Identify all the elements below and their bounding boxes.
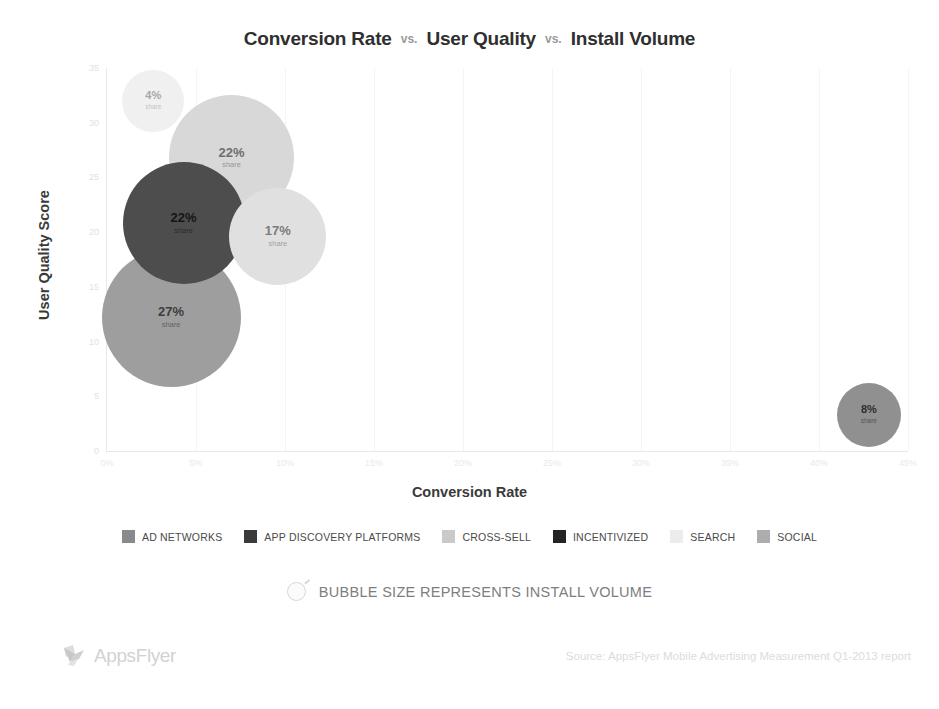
bubble-share-caption: share xyxy=(145,103,161,111)
bubble-share-caption: share xyxy=(268,239,287,249)
plot-area: 0%5%10%15%20%25%30%35%40%45%051015202530… xyxy=(106,68,908,452)
x-axis-tick-label: 15% xyxy=(365,458,383,468)
bubble-size-note: BUBBLE SIZE REPRESENTS INSTALL VOLUME xyxy=(0,582,939,601)
bubble-share-value: 22% xyxy=(171,211,197,225)
bubble-ad-networks[interactable]: 17%share xyxy=(229,188,326,285)
title-part-install-volume: Install Volume xyxy=(571,28,696,49)
bubble-share-caption: share xyxy=(222,160,241,170)
bubble-share-value: 27% xyxy=(158,305,184,319)
x-axis-tick-label: 40% xyxy=(810,458,828,468)
title-part-conversion-rate: Conversion Rate xyxy=(244,28,392,49)
legend-swatch-icon xyxy=(757,530,770,543)
legend-label: CROSS-SELL xyxy=(462,531,531,543)
legend-swatch-icon xyxy=(442,530,455,543)
y-axis-title: User Quality Score xyxy=(36,190,52,320)
bubble-share-value: 17% xyxy=(265,224,291,238)
bubble-share-value: 8% xyxy=(861,404,877,416)
legend-label: APP DISCOVERY PLATFORMS xyxy=(264,531,420,543)
legend: AD NETWORKSAPP DISCOVERY PLATFORMSCROSS-… xyxy=(0,530,939,543)
legend-item-cross-sell[interactable]: CROSS-SELL xyxy=(442,530,531,543)
legend-item-social[interactable]: SOCIAL xyxy=(757,530,817,543)
title-separator-2: vs. xyxy=(536,32,571,46)
legend-swatch-icon xyxy=(122,530,135,543)
x-axis-tick-label: 0% xyxy=(100,458,113,468)
legend-label: INCENTIVIZED xyxy=(573,531,648,543)
gridline-vertical xyxy=(819,68,820,451)
x-axis-tick-label: 10% xyxy=(276,458,294,468)
appsflyer-bird-icon xyxy=(62,643,90,669)
x-axis-tick-label: 25% xyxy=(543,458,561,468)
x-axis-tick-label: 30% xyxy=(632,458,650,468)
x-axis-tick-label: 35% xyxy=(721,458,739,468)
legend-item-search[interactable]: SEARCH xyxy=(670,530,735,543)
legend-swatch-icon xyxy=(244,530,257,543)
y-axis-tick-label: 30 xyxy=(89,118,99,128)
y-axis-tick-label: 10 xyxy=(89,337,99,347)
legend-item-ad-networks[interactable]: AD NETWORKS xyxy=(122,530,222,543)
legend-item-incentivized[interactable]: INCENTIVIZED xyxy=(553,530,648,543)
x-axis-title: Conversion Rate xyxy=(0,484,939,500)
gridline-vertical xyxy=(730,68,731,451)
legend-label: AD NETWORKS xyxy=(142,531,222,543)
gridline-vertical xyxy=(463,68,464,451)
legend-swatch-icon xyxy=(670,530,683,543)
bubble-size-note-text: BUBBLE SIZE REPRESENTS INSTALL VOLUME xyxy=(319,584,652,600)
legend-label: SOCIAL xyxy=(777,531,817,543)
gridline-vertical xyxy=(908,68,909,451)
y-axis-tick-label: 20 xyxy=(89,227,99,237)
gridline-vertical xyxy=(374,68,375,451)
appsflyer-wordmark: AppsFlyer xyxy=(94,645,176,667)
y-axis-tick-label: 25 xyxy=(89,172,99,182)
bubble-search[interactable]: 4%share xyxy=(122,70,184,132)
bubble-share-value: 22% xyxy=(219,146,245,160)
bubble-share-value: 4% xyxy=(145,90,161,102)
x-axis-tick-label: 20% xyxy=(454,458,472,468)
bubble-outline-icon xyxy=(287,582,306,601)
bubble-incentivized[interactable]: 22%share xyxy=(123,162,245,284)
bubble-share-caption: share xyxy=(861,417,877,425)
legend-label: SEARCH xyxy=(690,531,735,543)
x-axis-tick-label: 45% xyxy=(899,458,917,468)
bubble-share-caption: share xyxy=(174,226,193,236)
gridline-vertical xyxy=(552,68,553,451)
bubble-share-caption: share xyxy=(162,320,181,330)
legend-swatch-icon xyxy=(553,530,566,543)
page-title: Conversion Ratevs.User Qualityvs.Install… xyxy=(0,28,939,50)
y-axis-tick-label: 15 xyxy=(89,282,99,292)
title-part-user-quality: User Quality xyxy=(426,28,536,49)
x-axis-tick-label: 5% xyxy=(189,458,202,468)
appsflyer-logo: AppsFlyer xyxy=(62,643,176,669)
source-note: Source: AppsFlyer Mobile Advertising Mea… xyxy=(566,650,911,662)
title-separator-1: vs. xyxy=(392,32,427,46)
y-axis-tick-label: 0 xyxy=(94,446,99,456)
bubble-app-discovery-platforms[interactable]: 8%share xyxy=(837,383,901,447)
y-axis-tick-label: 5 xyxy=(94,391,99,401)
gridline-vertical xyxy=(641,68,642,451)
legend-item-app-discovery-platforms[interactable]: APP DISCOVERY PLATFORMS xyxy=(244,530,420,543)
chart-page: Conversion Ratevs.User Qualityvs.Install… xyxy=(0,0,939,709)
y-axis-tick-label: 35 xyxy=(89,63,99,73)
